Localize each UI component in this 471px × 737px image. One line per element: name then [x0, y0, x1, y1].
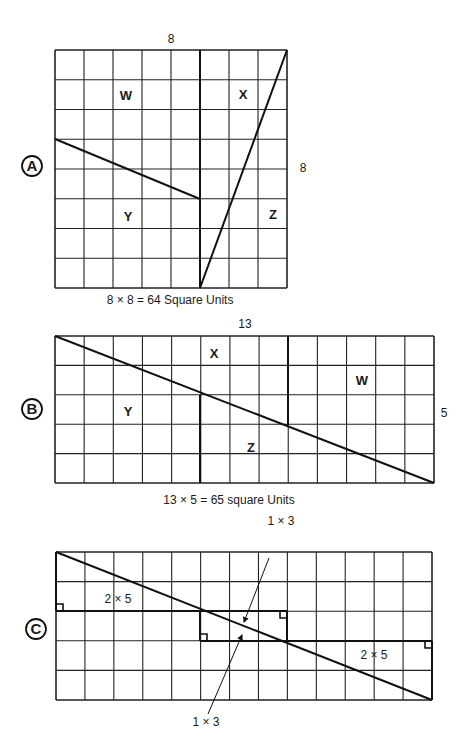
diagonal-c	[56, 552, 432, 700]
region-label-w: W	[356, 373, 369, 388]
region-label-z: Z	[269, 207, 277, 222]
right-angle-marker	[280, 611, 287, 618]
pointer-arrow-top	[244, 558, 269, 622]
dissection-paradox-diagram: 8 8 W X Y Z A 8 × 8 = 64 Square Units 13…	[0, 0, 471, 737]
label-right-rect: 2 × 5	[360, 648, 387, 662]
region-label-w: W	[120, 88, 133, 103]
right-angle-marker	[56, 604, 63, 611]
side-dimension-label: 5	[441, 406, 448, 420]
region-label-x: X	[210, 346, 219, 361]
label-top-sliver: 1 × 3	[267, 514, 294, 528]
diagonal-b	[55, 336, 434, 483]
region-label-z: Z	[247, 440, 255, 455]
label-left-rect: 2 × 5	[104, 592, 131, 606]
figure-marker-c-label: C	[31, 620, 42, 637]
caption-b: 13 × 5 = 65 square Units	[163, 493, 294, 507]
region-label-y: Y	[124, 404, 133, 419]
figure-marker-b-label: B	[27, 400, 38, 417]
grid-a	[55, 50, 287, 288]
pointer-arrow-bottom	[208, 635, 242, 714]
region-label-x: X	[239, 87, 248, 102]
figure-a: 8 8 W X Y Z A 8 × 8 = 64 Square Units	[22, 32, 307, 307]
figure-c: 2 × 5 2 × 5 1 × 3 1 × 3 C	[26, 514, 432, 729]
caption-a: 8 × 8 = 64 Square Units	[107, 293, 234, 307]
figure-b: 13 5 X W Y Z B 13 × 5 = 65 square Units	[22, 317, 448, 507]
right-angle-marker	[425, 641, 432, 648]
label-bottom-sliver: 1 × 3	[192, 715, 219, 729]
top-dimension-label: 8	[168, 32, 175, 46]
top-dimension-label: 13	[238, 317, 252, 331]
figure-marker-a-label: A	[27, 157, 38, 174]
side-dimension-label: 8	[300, 161, 307, 175]
region-label-y: Y	[124, 209, 133, 224]
